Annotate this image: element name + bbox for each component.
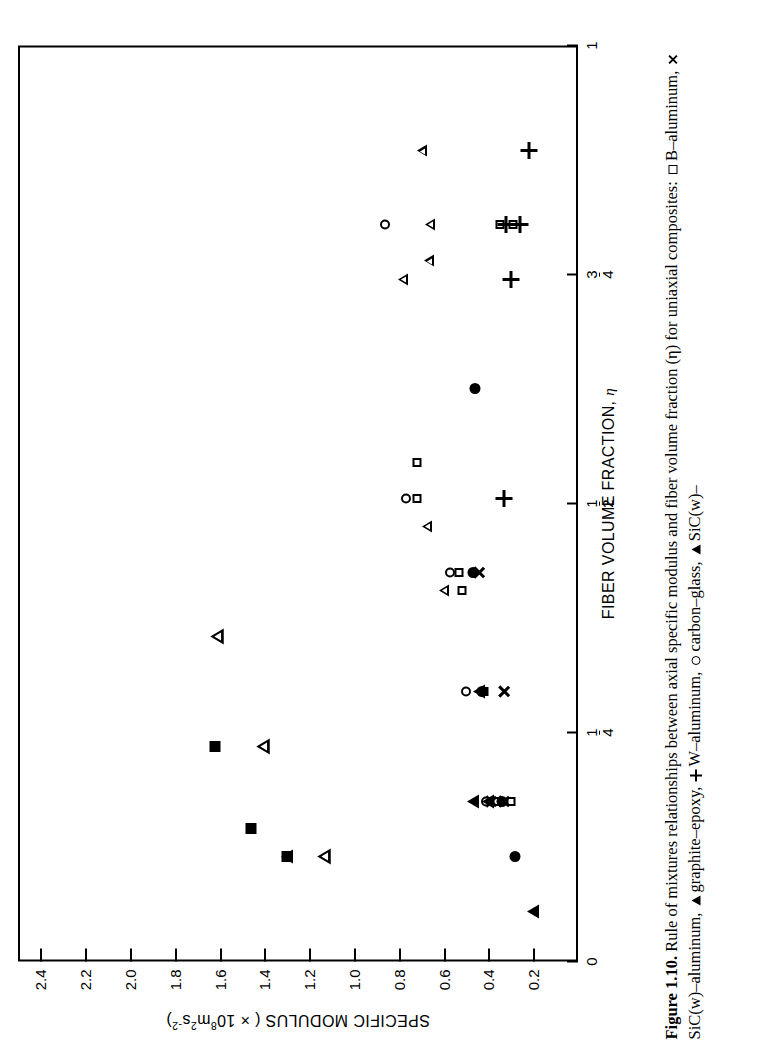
data-point-open-triangle-large bbox=[256, 738, 270, 754]
y-tick bbox=[130, 948, 132, 961]
legend-label: B–aluminum, bbox=[662, 70, 681, 160]
plot-inner-area bbox=[20, 47, 576, 959]
legend-symbol-cross-icon bbox=[667, 52, 678, 65]
figure-plot: 01412341 0.20.40.60.81.01.21.41.61.82.02… bbox=[0, 0, 640, 1049]
data-point-filled-circle bbox=[510, 850, 521, 861]
data-point-filled-square bbox=[210, 740, 221, 751]
data-point-plus bbox=[513, 217, 527, 231]
data-point-open-triangle bbox=[439, 584, 449, 596]
data-point-filled-circle bbox=[467, 566, 478, 577]
data-point-open-square bbox=[412, 494, 421, 503]
y-tick-label: 0.6 bbox=[435, 969, 452, 990]
y-tick-label: 2.4 bbox=[32, 969, 49, 990]
data-point-open-triangle-large bbox=[318, 848, 332, 864]
y-tick-label: 0.4 bbox=[480, 969, 497, 990]
data-point-open-circle bbox=[401, 493, 411, 503]
x-tick bbox=[567, 273, 578, 275]
x-tick bbox=[567, 44, 578, 46]
data-point-open-square bbox=[457, 586, 466, 595]
data-point-open-triangle bbox=[398, 273, 408, 285]
data-point-open-triangle-large bbox=[210, 628, 224, 644]
data-point-plus bbox=[522, 143, 536, 157]
y-axis-title: SPECIFIC MODULUS ( × 108m2s-2) bbox=[18, 1011, 578, 1031]
data-point-open-triangle bbox=[417, 144, 427, 156]
x-tick bbox=[567, 502, 578, 504]
legend-label: SiC(w)–aluminum, bbox=[685, 912, 704, 1039]
y-tick-label: 1.8 bbox=[166, 969, 183, 990]
y-tick bbox=[40, 948, 42, 961]
data-point-plus bbox=[497, 491, 511, 505]
data-point-filled-triangle bbox=[482, 794, 494, 808]
y-tick bbox=[399, 948, 401, 961]
y-tick-label: 2.0 bbox=[122, 969, 139, 990]
legend-symbol-open-triangle-icon bbox=[690, 894, 701, 907]
legend-label: SiC(w)– bbox=[685, 485, 704, 541]
y-tick bbox=[488, 948, 490, 961]
y-tick bbox=[309, 948, 311, 961]
data-point-open-square bbox=[412, 457, 421, 466]
figure-caption: Figure 1.10. Rule of mixtures relationsh… bbox=[660, 10, 707, 1039]
data-point-open-square bbox=[455, 567, 464, 576]
legend-symbol-plus-icon bbox=[690, 768, 701, 781]
data-point-filled-square bbox=[245, 823, 256, 834]
x-tick bbox=[567, 960, 578, 962]
y-tick bbox=[85, 948, 87, 961]
x-tick-label: 1 bbox=[584, 41, 599, 49]
y-tick-label: 1.2 bbox=[301, 969, 318, 990]
data-point-open-triangle bbox=[422, 520, 432, 532]
data-point-plus bbox=[504, 272, 518, 286]
x-tick bbox=[567, 731, 578, 733]
legend-symbol-filled-triangle-icon bbox=[690, 543, 701, 556]
y-tick bbox=[175, 948, 177, 961]
data-point-open-circle bbox=[380, 219, 390, 229]
data-point-filled-triangle bbox=[467, 794, 479, 808]
y-tick bbox=[444, 948, 446, 961]
data-point-filled-circle bbox=[476, 685, 487, 696]
data-point-filled-triangle bbox=[527, 904, 539, 918]
data-point-filled-circle bbox=[496, 795, 507, 806]
caption-text: Rule of mixtures relationships between a… bbox=[662, 181, 681, 952]
data-point-filled-square bbox=[281, 850, 292, 861]
data-point-open-triangle bbox=[424, 254, 434, 266]
x-tick-label: 0 bbox=[584, 957, 599, 965]
data-point-filled-circle bbox=[469, 383, 480, 394]
rotated-page: 01412341 0.20.40.60.81.01.21.41.61.82.02… bbox=[0, 0, 778, 1049]
figure-number: Figure 1.10. bbox=[662, 955, 681, 1039]
y-tick-label: 2.2 bbox=[77, 969, 94, 990]
data-point-open-circle bbox=[461, 686, 471, 696]
legend-symbol-open-square-icon bbox=[667, 163, 678, 176]
legend-label: carbon–glass, bbox=[685, 561, 704, 651]
data-point-open-triangle bbox=[425, 218, 435, 230]
y-tick-label: 1.0 bbox=[346, 969, 363, 990]
y-tick bbox=[220, 948, 222, 961]
legend-label: W–aluminum, bbox=[685, 671, 704, 766]
y-tick-label: 1.6 bbox=[211, 969, 228, 990]
y-tick-label: 1.4 bbox=[256, 969, 273, 990]
y-tick bbox=[354, 948, 356, 961]
data-point-open-circle bbox=[445, 567, 455, 577]
y-tick-label: 0.8 bbox=[390, 969, 407, 990]
legend-label: graphite–epoxy, bbox=[685, 786, 704, 892]
y-tick bbox=[533, 948, 535, 961]
x-axis-title: FIBER VOLUME FRACTION, η bbox=[600, 45, 618, 961]
data-point-cross bbox=[497, 684, 511, 698]
legend-symbol-open-circle-icon bbox=[690, 653, 701, 666]
y-tick-label: 0.2 bbox=[525, 969, 542, 990]
plot-axes-frame bbox=[18, 45, 578, 961]
y-tick bbox=[264, 948, 266, 961]
